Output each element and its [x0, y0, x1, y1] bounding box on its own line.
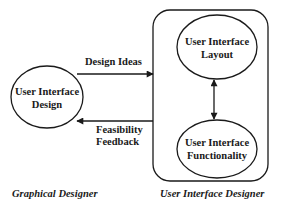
node-ui-design[interactable]: User Interface Design	[11, 66, 83, 128]
edge-feasibility-feedback-label-line-2: Feedback	[96, 136, 139, 147]
edge-feasibility-feedback-label-line-1: Feasibility	[96, 124, 143, 135]
node-ui-design-shape	[11, 66, 83, 128]
role-label-graphical-designer: Graphical Designer	[12, 188, 98, 199]
node-ui-layout-label-line-1: User Interface	[185, 36, 250, 47]
node-ui-layout-shape	[177, 15, 257, 79]
role-label-ui-designer: User Interface Designer	[160, 188, 265, 199]
node-ui-functionality[interactable]: User Interface Functionality	[177, 120, 257, 178]
node-ui-layout-label-line-2: Layout	[201, 49, 234, 60]
node-ui-functionality-label-line-2: Functionality	[187, 150, 248, 161]
node-ui-design-label-line-2: Design	[32, 99, 62, 110]
node-ui-functionality-shape	[177, 120, 257, 178]
edge-design-ideas: Design Ideas	[77, 56, 153, 74]
edge-feasibility-feedback: Feasibility Feedback	[77, 121, 153, 147]
edge-design-ideas-label: Design Ideas	[85, 56, 142, 67]
node-ui-layout[interactable]: User Interface Layout	[177, 15, 257, 79]
diagram-canvas: User Interface Design User Interface Lay…	[0, 0, 281, 208]
node-ui-functionality-label-line-1: User Interface	[185, 137, 250, 148]
node-ui-design-label-line-1: User Interface	[15, 86, 80, 97]
